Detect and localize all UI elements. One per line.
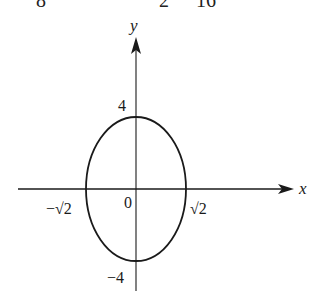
origin-label: 0 [124, 194, 132, 211]
y-axis-label: y [128, 16, 138, 35]
ellipse-graph: y x 4 −4 0 −√2 √2 [0, 0, 325, 303]
tick-label-x-pos: √2 [190, 200, 207, 217]
tick-label-x-neg: −√2 [46, 200, 72, 217]
x-axis-label: x [298, 179, 307, 198]
tick-label-y-pos: 4 [118, 97, 126, 114]
tick-label-y-neg: −4 [107, 269, 124, 286]
